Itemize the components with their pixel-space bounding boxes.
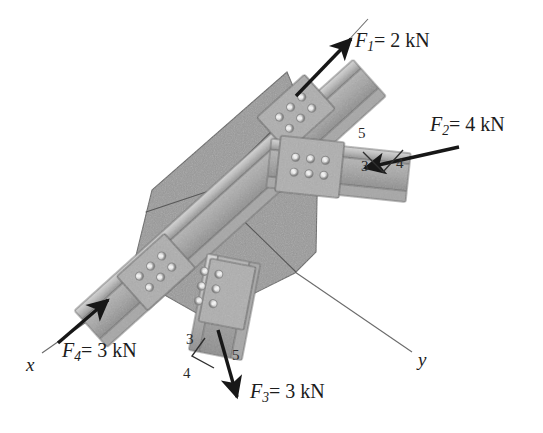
- y-axis-line: [295, 272, 412, 352]
- force-unit-f3: kN: [300, 380, 324, 402]
- force-unit-f4: kN: [112, 339, 136, 361]
- slope-number-f3-horizontal: 4: [183, 366, 191, 381]
- force-label-f3: F3= 3 kN: [250, 381, 325, 404]
- force-equals-f4: =: [81, 339, 92, 361]
- force-unit-f2: kN: [480, 113, 504, 135]
- force-magnitude-f3: 3: [285, 380, 295, 402]
- force-symbol-f2: F2: [430, 113, 449, 135]
- slope-number-f2-hypotenuse: 5: [358, 126, 366, 141]
- gusset-plate-diagram: [0, 0, 543, 433]
- force-label-f4: F4= 3 kN: [62, 340, 137, 363]
- force-symbol-f1: F1: [355, 29, 374, 51]
- force-magnitude-f4: 3: [97, 339, 107, 361]
- figure-canvas: F1= 2 kN F2= 4 kN F3= 3 kN F4= 3 kN 5 3 …: [0, 0, 543, 433]
- force-magnitude-f1: 2: [390, 29, 400, 51]
- splice-plate-f2-body: [275, 136, 345, 198]
- slope-number-f3-vertical: 3: [186, 332, 194, 347]
- force-equals-f2: =: [449, 113, 460, 135]
- force-symbol-f3: F3: [250, 380, 269, 402]
- slope-number-f2-vertical: 3: [361, 159, 369, 174]
- force-symbol-f4: F4: [62, 339, 81, 361]
- axis-label-y: y: [418, 350, 426, 369]
- force-equals-f1: =: [374, 29, 385, 51]
- force-magnitude-f2: 4: [465, 113, 475, 135]
- axis-label-x: x: [26, 355, 34, 374]
- force-label-f2: F2= 4 kN: [430, 114, 505, 137]
- force-equals-f3: =: [269, 380, 280, 402]
- force-unit-f1: kN: [405, 29, 429, 51]
- force-label-f1: F1= 2 kN: [355, 30, 430, 53]
- slope-number-f3-hypotenuse: 5: [232, 348, 240, 363]
- slope-number-f2-horizontal: 4: [396, 156, 404, 171]
